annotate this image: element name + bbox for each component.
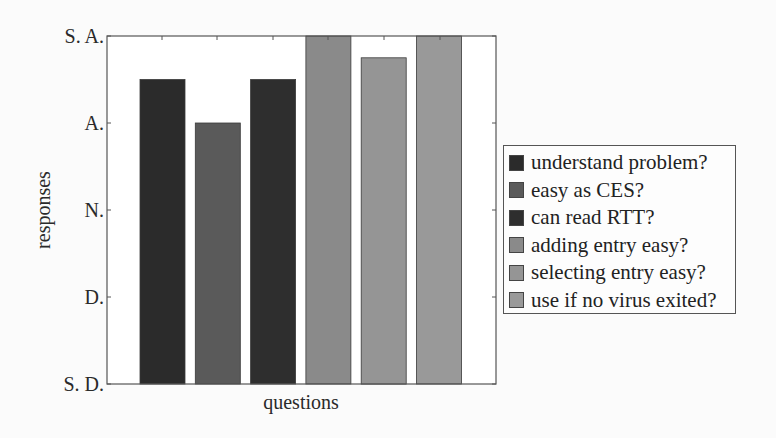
- bar: [251, 80, 296, 385]
- legend-item: can read RTT?: [509, 204, 735, 232]
- bar: [417, 36, 462, 384]
- legend-swatch: [509, 292, 524, 308]
- bar-chart: S. D.D.N.A.S. A. questions responses und…: [0, 0, 776, 438]
- x-axis-label: questions: [263, 391, 339, 414]
- legend-label: can read RTT?: [531, 207, 655, 228]
- legend-item: use if no virus exited?: [509, 287, 735, 315]
- legend-swatch: [509, 210, 524, 226]
- y-tick-label: N.: [85, 199, 104, 221]
- bar: [195, 123, 240, 384]
- legend-item: easy as CES?: [509, 177, 735, 205]
- legend-label: selecting entry easy?: [531, 262, 706, 283]
- legend: understand problem? easy as CES? can rea…: [503, 145, 736, 314]
- y-axis-label: responses: [32, 171, 55, 249]
- legend-label: adding entry easy?: [531, 235, 688, 256]
- legend-swatch: [509, 155, 524, 171]
- legend-label: understand problem?: [531, 152, 708, 173]
- legend-item: understand problem?: [509, 149, 735, 177]
- legend-swatch: [509, 265, 524, 281]
- legend-item: selecting entry easy?: [509, 259, 735, 287]
- legend-item: adding entry easy?: [509, 232, 735, 260]
- y-tick-label: S. A.: [65, 25, 104, 47]
- y-tick-label: S. D.: [63, 373, 104, 395]
- bar: [140, 80, 185, 385]
- y-tick-label: A.: [85, 112, 104, 134]
- legend-swatch: [509, 182, 524, 198]
- y-tick-label: D.: [85, 286, 104, 308]
- legend-label: use if no virus exited?: [531, 290, 716, 311]
- legend-swatch: [509, 237, 524, 253]
- legend-label: easy as CES?: [531, 180, 644, 201]
- bar: [306, 36, 351, 384]
- bar: [361, 58, 406, 384]
